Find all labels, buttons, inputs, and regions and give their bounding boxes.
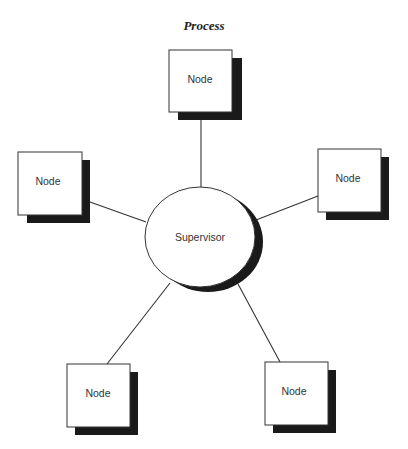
connector-left [90, 202, 146, 222]
node-bottom-right: Node [265, 362, 336, 433]
node-label: Node [281, 385, 306, 397]
node-bottom-left: Node [67, 364, 138, 435]
supervisor-node: Supervisor [145, 187, 263, 292]
connector-right [256, 196, 318, 220]
node-right: Node [318, 149, 389, 220]
node-top: Node [169, 50, 242, 120]
node-label: Node [35, 175, 60, 187]
process-diagram: Supervisor Node Node Node Node Node [0, 0, 408, 449]
node-label: Node [335, 172, 360, 184]
node-label: Node [85, 387, 110, 399]
connector-bottom-right [238, 284, 280, 362]
node-left: Node [18, 152, 90, 223]
supervisor-label: Supervisor [175, 231, 226, 243]
node-label: Node [187, 73, 212, 85]
connector-bottom-left [107, 283, 170, 364]
